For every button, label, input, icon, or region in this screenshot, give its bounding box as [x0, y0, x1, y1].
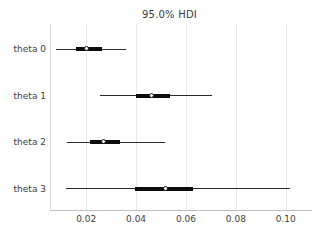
x-axis-spine [50, 210, 312, 211]
x-tick-label: 0.08 [226, 214, 246, 224]
hdi-50-interval [76, 47, 102, 51]
chart-title-text: 95.0% HDI [142, 9, 197, 20]
x-tick-label: 0.10 [276, 214, 296, 224]
gridline-x-3 [236, 24, 237, 210]
x-tick-label: 0.02 [76, 214, 96, 224]
hdi-forest-plot: 95.0% HDI 0.020.040.060.080.10theta 0the… [0, 0, 317, 245]
y-tick-label-theta-1: theta 1 [14, 91, 46, 101]
x-tick-label: 0.06 [176, 214, 196, 224]
chart-title: 95.0% HDI [0, 9, 317, 20]
gridline-x-2 [186, 24, 187, 210]
x-tick-label: 0.04 [126, 214, 146, 224]
y-tick-label-theta-2: theta 2 [14, 137, 46, 147]
point-estimate-marker [163, 186, 168, 191]
gridline-x-4 [286, 24, 287, 210]
y-tick-label-theta-3: theta 3 [14, 184, 46, 194]
gridline-x-0 [86, 24, 87, 210]
plot-area [50, 24, 312, 210]
y-tick-label-theta-0: theta 0 [14, 44, 46, 54]
gridline-x-1 [136, 24, 137, 210]
point-estimate-marker [101, 139, 106, 144]
